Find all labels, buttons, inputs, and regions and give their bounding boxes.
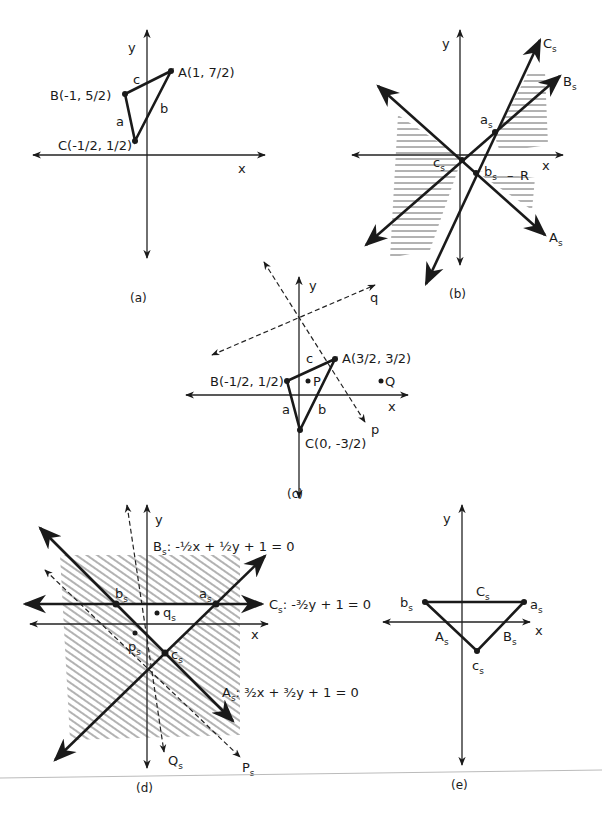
- y-axis-label: y: [442, 36, 450, 51]
- x-axis-label: x: [535, 623, 543, 638]
- label-line-Ps: Ps: [242, 760, 255, 778]
- label-point-A: A(3/2, 3/2): [342, 351, 411, 366]
- label-point-B: B(-1, 5/2): [50, 88, 111, 103]
- point-A: [168, 68, 174, 74]
- equation-Cs: Cs: -³⁄₂y + 1 = 0: [269, 597, 371, 615]
- label-point-bs: bs: [400, 595, 413, 613]
- caption-e: (e): [451, 778, 468, 792]
- point-B: [122, 91, 128, 97]
- y-axis-label: y: [155, 512, 163, 527]
- label-point-as: as: [480, 112, 493, 130]
- y-axis-label: y: [128, 40, 136, 55]
- label-side-b: b: [160, 101, 168, 116]
- point-A: [332, 356, 338, 362]
- point-Q: [379, 379, 384, 384]
- label-point-B: B(-1/2, 1/2): [210, 374, 284, 389]
- point-bs: [473, 170, 479, 176]
- label-side-b: b: [318, 402, 326, 417]
- x-axis-label: x: [388, 399, 396, 414]
- panel-a: x y A(1, 7/2) B(-1, 5/2) C(-1/2, 1/2) c …: [33, 30, 265, 305]
- panel-c: x y p q A(3/2, 3/2) B(-1/2, 1/2) C(0, -3…: [186, 262, 411, 501]
- label-point-cs: cs: [472, 658, 484, 676]
- point-as: [213, 601, 220, 608]
- label-side-a: a: [116, 114, 124, 129]
- point-P: [306, 379, 311, 384]
- label-point-P: P: [313, 374, 321, 389]
- point-C: [297, 427, 303, 433]
- point-as: [521, 599, 527, 605]
- page-edge-rule: [0, 770, 602, 778]
- x-axis-label: x: [238, 161, 246, 176]
- point-cs: [459, 157, 465, 163]
- x-axis-label: x: [251, 627, 259, 642]
- y-axis-label: y: [443, 511, 451, 526]
- label-side-c: c: [306, 351, 313, 366]
- label-point-A: A(1, 7/2): [178, 65, 235, 80]
- label-side-a: a: [282, 402, 290, 417]
- label-side-As: As: [435, 629, 449, 647]
- hatched-region-right-upper: [495, 72, 548, 152]
- region-R-dash: –: [507, 168, 514, 183]
- label-line-Bs: Bs: [563, 74, 577, 92]
- point-as: [492, 129, 498, 135]
- label-line-Cs: Cs: [543, 36, 557, 54]
- point-cs: [162, 650, 169, 657]
- caption-b: (b): [449, 287, 466, 301]
- label-side-c: c: [133, 72, 140, 87]
- equation-As: As: ³⁄₂x + ³⁄₂y + 1 = 0: [222, 685, 359, 703]
- point-B: [284, 378, 290, 384]
- figure-canvas: x y A(1, 7/2) B(-1, 5/2) C(-1/2, 1/2) c …: [0, 0, 602, 820]
- hatched-region-left: [390, 115, 462, 258]
- label-region-R: R: [520, 168, 529, 183]
- caption-d: (d): [136, 781, 153, 795]
- point-C: [132, 138, 138, 144]
- label-line-p: p: [371, 422, 379, 437]
- x-axis-label: x: [542, 158, 550, 173]
- label-side-Cs: Cs: [476, 584, 490, 602]
- equation-Bs: Bs: -½x + ½y + 1 = 0: [153, 539, 294, 557]
- label-line-q: q: [370, 290, 378, 305]
- label-point-Q: Q: [385, 374, 395, 389]
- label-point-as: as: [530, 597, 543, 615]
- point-bs: [422, 599, 428, 605]
- point-qs: [155, 611, 160, 616]
- point-ps: [133, 631, 138, 636]
- panel-d: x y Bs: -½x + ½y + 1 = 0 Cs: -³⁄₂y + 1 =…: [25, 505, 371, 795]
- label-line-As: As: [549, 230, 563, 248]
- point-cs: [474, 648, 480, 654]
- caption-a: (a): [130, 291, 147, 305]
- panel-e: x y bs as cs Cs As Bs (e): [383, 505, 543, 792]
- caption-c: (c): [287, 487, 303, 501]
- dashed-line-q: [212, 285, 375, 355]
- hatched-region: [60, 555, 240, 740]
- label-point-C: C(-1/2, 1/2): [58, 138, 132, 153]
- panel-b: x y Cs Bs As as cs bs – R (b): [352, 30, 577, 301]
- y-axis-label: y: [309, 278, 317, 293]
- label-line-Qs: Qs: [168, 753, 183, 771]
- point-bs: [113, 601, 120, 608]
- label-point-C: C(0, -3/2): [305, 436, 366, 451]
- label-side-Bs: Bs: [503, 629, 517, 647]
